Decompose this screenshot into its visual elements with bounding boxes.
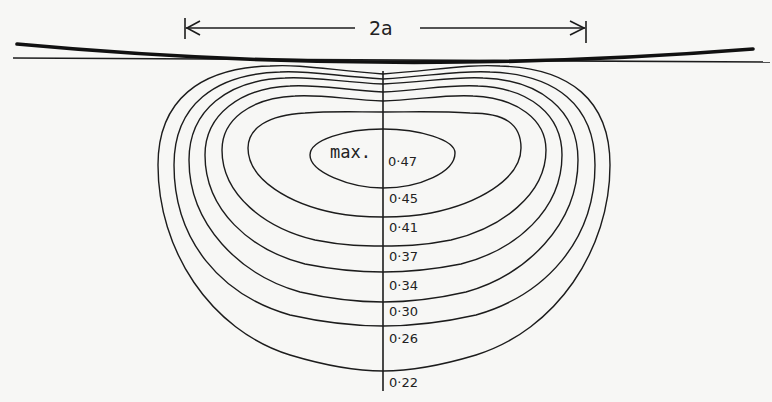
contour-label-030: 0·30 xyxy=(389,304,418,319)
contour-label-047: 0·47 xyxy=(388,154,417,169)
contact-surface xyxy=(13,44,770,62)
stress-contours xyxy=(158,66,610,371)
contour-label-045: 0·45 xyxy=(389,191,418,206)
contour-label-034: 0·34 xyxy=(389,278,418,293)
contour-label-022: 0·22 xyxy=(389,375,418,390)
contour-diagram: 2a max. 0·47 0·45 0·41 0·37 0·34 0·30 0·… xyxy=(0,0,772,402)
max-label: max. xyxy=(330,142,371,162)
contour-label-026: 0·26 xyxy=(389,331,418,346)
dimension-label: 2a xyxy=(369,17,393,39)
contour-label-041: 0·41 xyxy=(389,220,418,235)
contour-label-037: 0·37 xyxy=(389,249,418,264)
